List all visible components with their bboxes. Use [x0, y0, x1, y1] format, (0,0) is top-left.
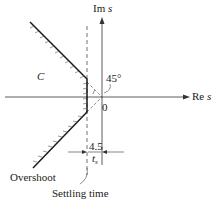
real-axis: [5, 95, 190, 100]
origin-label: 0: [102, 101, 108, 113]
lower-hatching: [33, 116, 82, 162]
real-axis-arrow-icon: [183, 95, 190, 100]
imaginary-axis-arrow-icon: [100, 17, 105, 24]
overshoot-label: Overshoot: [10, 171, 56, 183]
angle-label: 45°: [106, 72, 121, 84]
left-arrow-icon: [102, 150, 107, 154]
right-arrow-icon: [82, 150, 87, 154]
settling-fraction: 4.5 ts: [88, 140, 103, 166]
region-label: C: [37, 70, 45, 82]
settling-leader: [80, 168, 87, 184]
settling-numerator: 4.5: [89, 140, 103, 152]
angle-leader: [104, 84, 110, 93]
angle-arc: [93, 90, 95, 94]
s-plane-diagram: Im s Re s 0 C 45° 4.5 ts Overshoot Settl…: [0, 0, 213, 202]
settling-denominator: ts: [92, 152, 98, 166]
real-axis-label: Re s: [192, 90, 211, 102]
region-boundary: [30, 22, 87, 168]
settling-time-label: Settling time: [52, 187, 109, 199]
imaginary-axis-label: Im s: [93, 2, 112, 14]
